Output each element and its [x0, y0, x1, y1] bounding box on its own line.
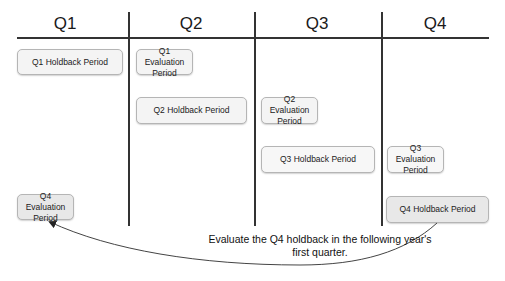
carryover-annotation: Evaluate the Q4 holdback in the followin…: [205, 233, 435, 259]
